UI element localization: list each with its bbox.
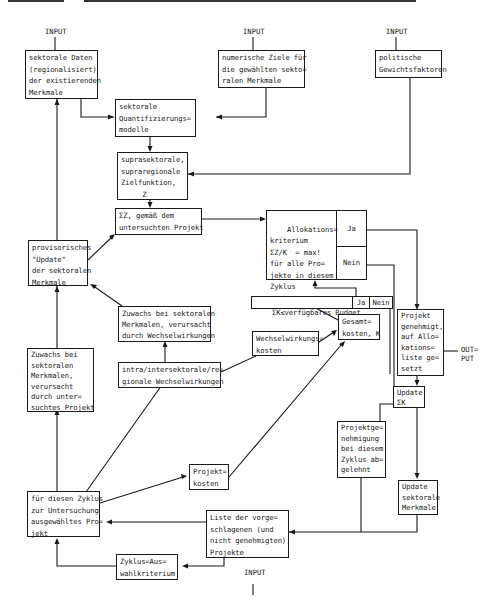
budget-nein-cell: Nein: [369, 297, 392, 308]
connector-ja-genehmigt: [367, 230, 417, 306]
box-projektkosten: Projekt= kosten: [189, 464, 229, 490]
box-zuwachs-projekt: Zuwachs bei sektoralen Merkmalen, verurs…: [27, 348, 94, 412]
connector-prov-delta: [88, 236, 113, 260]
arrowhead: [188, 172, 194, 177]
arrowhead: [415, 473, 420, 479]
arrowhead: [108, 115, 114, 120]
box-projektgenehmigung-abgelehnt: Projektge= nehmigung bei diesem Zyklus a…: [337, 421, 386, 478]
connector-ausgewaehlt-projektkosten: [100, 477, 183, 503]
connector-politisch-ziel: [188, 78, 410, 174]
box-politische-gewichte: politische Gewichtsfaktoren: [375, 50, 442, 78]
input-label-3: INPUT: [386, 27, 408, 36]
input-label-2: INPUT: [243, 27, 265, 36]
connector-intra-wwkosten: [221, 356, 256, 372]
arrowhead: [289, 530, 295, 535]
connector-ziele-quant: [216, 88, 266, 117]
box-sektorale-daten: sektorale Daten (regionalisiert) der exi…: [25, 50, 98, 99]
input-label-1: INPUT: [45, 27, 67, 36]
alloc-ja-cell: Ja: [336, 211, 366, 246]
box-update-sektorale: Update sektorale Merkmale: [398, 480, 438, 515]
box-delta-z: ΣZ, gemäß dem untersuchten Projekt: [115, 208, 202, 235]
flowchart-diagram: INPUT INPUT INPUT INPUT OUT= PUT sektora…: [0, 0, 493, 604]
connector-projektkosten-gesamt: [229, 344, 342, 477]
box-update-sum-k: Update ΣK: [393, 386, 425, 408]
box-numerische-ziele: numerische Ziele für die gewählten sekto…: [218, 50, 305, 88]
input-label-4: INPUT: [244, 568, 266, 577]
box-zielfunktion: suprasektorale, supraregionale Zielfunkt…: [117, 152, 188, 200]
arrowhead: [55, 538, 60, 544]
arrowhead: [182, 564, 188, 569]
box-zuwachs-wechselwirkungen: Zuwachs bei sektoralen Merkmalen, verurs…: [118, 306, 211, 342]
connector-zuwachsww-prov: [92, 285, 122, 306]
box-gesamtkosten: Gesamt= kosten, K: [338, 314, 380, 340]
budget-ja-cell: Ja: [352, 297, 369, 308]
box-zyklus-auswahlkriterium: Zyklus=Aus= wahlkriterium: [116, 554, 178, 580]
arrowhead: [216, 115, 222, 120]
connector-daten-quant: [81, 99, 114, 117]
box-liste-projekte: Liste der vorge= schlagenen (und nicht g…: [206, 510, 289, 558]
arrowhead: [181, 474, 187, 479]
box-intra-intersektorale: intra/intersektorale/re= gionale Wechsel…: [118, 362, 221, 388]
box-budget-check: ΣK≤verfügbares Budget Ja Nein: [251, 296, 393, 309]
connector-budget-alloc: [315, 284, 356, 296]
box-allokationskriterium: Allokations= kriterium ΣZ/K = max! für a…: [266, 210, 367, 280]
connector-ausgewaehlt-intra: [86, 382, 164, 492]
output-label: OUT= PUT: [461, 345, 478, 363]
arrowhead: [106, 520, 112, 525]
box-provisorisches-update: provisorisches "Update" der sektoralen M…: [28, 240, 88, 286]
connector-zyklus-ausgewaehlt: [57, 540, 116, 566]
alloc-nein-cell: Nein: [336, 246, 366, 279]
arrowhead: [55, 99, 60, 105]
connector-liste-zyklus: [186, 557, 224, 566]
connector-updatesekt-liste: [289, 514, 417, 532]
box-projekt-genehmigt: Projekt genehmigt, auf Allo= kations= li…: [397, 309, 444, 376]
box-wechselwirkungskosten: Wechselwirkungs= kosten: [252, 331, 319, 356]
box-ausgewaehltes-projekt: für diesen Zyklus zur Untersuchung ausge…: [27, 491, 100, 537]
box-quantifizierungsmodelle: sektorale Quantifizierungs= modelle: [115, 99, 196, 137]
